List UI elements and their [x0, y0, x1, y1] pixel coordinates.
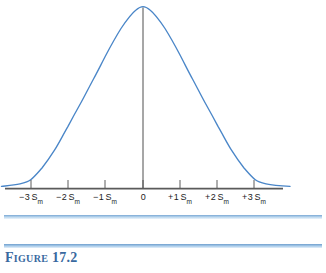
divider-rule-lower [4, 244, 322, 248]
x-tick-label-minus-3: −3Sm [19, 192, 43, 204]
figure-page: −3Sm −2Sm −1Sm 0 +1Sm +2Sm +3Sm Figure 1… [0, 0, 326, 273]
normal-distribution-chart: −3Sm −2Sm −1Sm 0 +1Sm +2Sm +3Sm [0, 0, 326, 212]
x-tick-label-zero: 0 [140, 192, 146, 204]
x-tick-label-plus-2: +2Sm [205, 192, 229, 204]
x-tick-label-minus-1: −1Sm [93, 192, 117, 204]
figure-caption-block: Figure 17.2 [0, 212, 326, 273]
axis-tick-marks [31, 180, 254, 188]
chart-svg [0, 0, 326, 212]
x-tick-label-plus-3: +3Sm [242, 192, 266, 204]
divider-rule-upper [4, 215, 322, 219]
x-tick-label-plus-1: +1Sm [168, 192, 192, 204]
figure-caption-label: Figure 17.2 [5, 250, 78, 266]
x-tick-label-minus-2: −2Sm [56, 192, 80, 204]
distribution-curve [2, 7, 291, 187]
